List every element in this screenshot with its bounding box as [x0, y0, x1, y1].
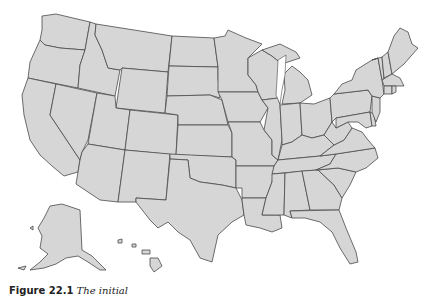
state-wyoming	[116, 68, 168, 113]
us-states-map	[0, 0, 430, 280]
state-hawaii-big-island	[150, 258, 162, 272]
alaska-island	[30, 226, 33, 230]
state-washington	[40, 14, 90, 50]
state-arizona	[76, 144, 125, 202]
state-florida	[290, 210, 358, 264]
alaska-island	[18, 266, 26, 270]
state-new-mexico	[118, 150, 170, 202]
caption-text: The initial	[77, 285, 128, 296]
state-alaska	[30, 204, 106, 270]
state-hawaii-kauai	[118, 239, 122, 243]
state-montana	[95, 24, 172, 72]
state-kansas	[176, 125, 232, 157]
state-hawaii-oahu	[132, 244, 136, 247]
state-colorado	[125, 110, 178, 155]
state-michigan-lower	[282, 66, 312, 104]
figure-caption: Figure 22.1 The initial	[9, 285, 128, 296]
state-north-dakota	[169, 36, 218, 67]
state-hawaii-maui	[142, 250, 150, 254]
state-maine	[388, 28, 418, 74]
state-connecticut	[384, 86, 392, 94]
state-south-dakota	[167, 66, 220, 98]
caption-label: Figure 22.1	[9, 285, 73, 296]
state-rhode-island	[392, 86, 396, 94]
